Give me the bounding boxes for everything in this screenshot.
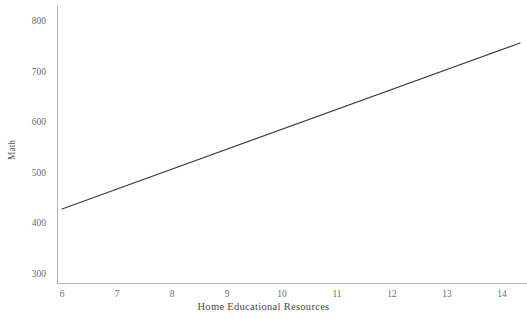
y-tick-label: 500: [18, 168, 46, 178]
x-tick-label: 13: [442, 289, 452, 299]
x-axis-title: Home Educational Resources: [0, 301, 527, 312]
y-tick-label: 300: [18, 269, 46, 279]
y-tick-label: 600: [18, 117, 46, 127]
x-tick-label: 12: [387, 289, 397, 299]
y-axis-title: Math: [7, 140, 17, 160]
x-tick-label: 6: [60, 289, 65, 299]
line-chart: 800 700 600 500 400 300 6 7 8 9 10 11 12…: [0, 0, 527, 319]
x-tick-label: 14: [497, 289, 507, 299]
x-tick-label: 8: [170, 289, 175, 299]
trend-line: [62, 43, 520, 209]
x-tick-label: 11: [332, 289, 341, 299]
x-tick-label: 7: [115, 289, 120, 299]
x-tick-label: 9: [225, 289, 230, 299]
y-tick-label: 800: [18, 16, 46, 26]
y-tick-label: 400: [18, 218, 46, 228]
plot-area: [0, 0, 527, 319]
x-tick-label: 10: [277, 289, 287, 299]
y-tick-label: 700: [18, 67, 46, 77]
